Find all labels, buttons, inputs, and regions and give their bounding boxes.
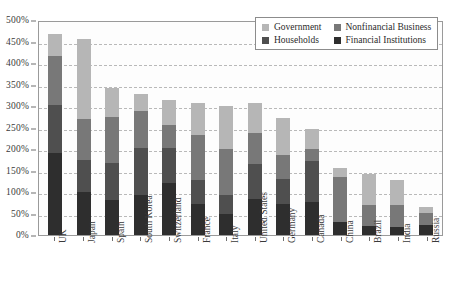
bar-segment (305, 129, 319, 149)
x-tick-mark (255, 237, 256, 241)
bar-stack (48, 34, 62, 235)
y-tick-mark (31, 128, 36, 129)
x-tick-label: Switzerland (173, 198, 183, 243)
bar-column[interactable] (77, 22, 91, 235)
y-tick-label: 150% (6, 167, 29, 177)
x-tick-label: Japan (87, 221, 97, 243)
x-tick-label: France (202, 217, 212, 243)
x-tick-mark (369, 237, 370, 241)
bar-segment (162, 100, 176, 125)
y-tick-mark (31, 42, 36, 43)
legend-item[interactable]: Nonfinancial Business (334, 22, 432, 32)
x-tick-label: South Korea (144, 195, 154, 243)
legend-swatch-nonfinancial-business (334, 24, 341, 31)
bar-segment (48, 153, 62, 235)
x-tick-label: Russia (431, 218, 441, 243)
y-tick-label: 0% (16, 231, 29, 241)
bar-segment (48, 56, 62, 105)
y-tick-label: 250% (6, 124, 29, 134)
y-tick-label: 350% (6, 81, 29, 91)
bar-segment (390, 180, 404, 205)
bar-segment (105, 117, 119, 163)
bar-segment (191, 180, 205, 204)
legend-item[interactable]: Households (262, 35, 322, 45)
y-tick-mark (31, 150, 36, 151)
bar-column[interactable] (362, 22, 376, 235)
bar-column[interactable] (390, 22, 404, 235)
bar-segment (191, 135, 205, 180)
x-tick-mark (112, 237, 113, 241)
y-tick-label: 500% (6, 16, 29, 26)
x-tick-label: Italy (230, 226, 240, 243)
bar-segment (162, 148, 176, 182)
bar-segment (276, 179, 290, 204)
y-tick-label: 200% (6, 145, 29, 155)
bar-stack (77, 39, 91, 236)
y-tick-mark (31, 21, 36, 22)
x-tick-mark (169, 237, 170, 241)
bar-segment (48, 105, 62, 154)
y-tick-mark (31, 236, 36, 237)
y-tick-mark (31, 85, 36, 86)
x-tick-mark (312, 237, 313, 241)
bar-stack (105, 88, 119, 235)
x-tick-mark (427, 237, 428, 241)
bar-segment (134, 111, 148, 148)
y-tick-label: 450% (6, 38, 29, 48)
stacked-bar-chart: 500%450%400%350%300%250%200%150%100%50%0… (0, 0, 453, 307)
y-tick-mark (31, 214, 36, 215)
bar-segment (305, 149, 319, 161)
bar-segment (48, 34, 62, 56)
x-tick-mark (140, 237, 141, 241)
y-axis: 500%450%400%350%300%250%200%150%100%50%0… (0, 0, 36, 257)
bar-column[interactable] (333, 22, 347, 235)
x-tick-mark (83, 237, 84, 241)
legend-label: Government (274, 22, 322, 32)
bar-segment (162, 125, 176, 148)
legend-item[interactable]: Financial Institutions (334, 35, 432, 45)
bar-stack (219, 106, 233, 235)
y-tick-mark (31, 64, 36, 65)
bar-segment (77, 119, 91, 160)
chart-legend: GovernmentNonfinancial BusinessHousehold… (255, 17, 438, 50)
x-tick-label: United States (259, 192, 269, 243)
bar-segment (333, 177, 347, 222)
x-tick-label: Canada (316, 215, 326, 244)
x-tick-label: China (345, 220, 355, 243)
x-tick-mark (341, 237, 342, 241)
bar-segment (219, 195, 233, 214)
legend-swatch-government (262, 24, 269, 31)
legend-label: Households (274, 35, 319, 45)
y-tick-mark (31, 171, 36, 172)
bar-segment (248, 133, 262, 164)
bar-segment (219, 149, 233, 195)
legend-item[interactable]: Government (262, 22, 322, 32)
bar-stack (191, 103, 205, 235)
bar-column[interactable] (419, 22, 433, 235)
x-tick-label: UK (58, 229, 68, 243)
x-tick-mark (398, 237, 399, 241)
legend-swatch-financial-institutions (334, 37, 341, 44)
y-tick-label: 50% (11, 210, 29, 220)
bar-column[interactable] (48, 22, 62, 235)
x-tick-label: India (402, 223, 412, 243)
bar-column[interactable] (219, 22, 233, 235)
x-tick-label: Brazil (373, 220, 383, 243)
bar-segment (333, 168, 347, 177)
bar-segment (248, 103, 262, 132)
bar-segment (305, 161, 319, 202)
bar-segment (77, 39, 91, 119)
x-tick-mark (198, 237, 199, 241)
x-axis: UKJapanSpainSouth KoreaSwitzerlandFrance… (38, 237, 443, 307)
bar-segment (191, 103, 205, 135)
bar-column[interactable] (105, 22, 119, 235)
bar-segment (105, 163, 119, 200)
bar-segment (219, 106, 233, 150)
plot-area (38, 21, 443, 236)
bar-column[interactable] (276, 22, 290, 235)
x-tick-mark (283, 237, 284, 241)
bar-column[interactable] (305, 22, 319, 235)
x-tick-mark (226, 237, 227, 241)
bar-column[interactable] (191, 22, 205, 235)
bar-segment (134, 94, 148, 112)
